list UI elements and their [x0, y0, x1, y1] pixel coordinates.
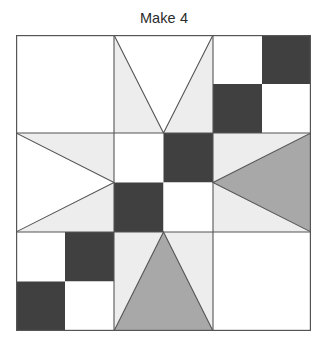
patch-white	[213, 232, 311, 331]
patch-dark	[262, 35, 311, 84]
quilt-block-svg	[16, 35, 311, 331]
patch-white	[16, 232, 65, 282]
patch-dark	[16, 282, 65, 332]
patch-dark	[213, 84, 262, 133]
unit-r2c3-flying-geese-left	[213, 133, 311, 232]
patch-dark	[65, 232, 114, 282]
patch-white	[262, 84, 311, 133]
patch-white	[114, 133, 164, 183]
quilt-block	[16, 35, 311, 331]
patch-white	[65, 282, 114, 332]
patch-dark	[164, 133, 214, 183]
patch-white	[164, 183, 214, 233]
unit-r2c2-four-patch	[114, 133, 213, 232]
unit-r1c2-flying-geese-down	[114, 35, 213, 133]
patch-dark	[114, 183, 164, 233]
unit-r1c1-plain-square	[16, 35, 114, 133]
unit-r1c3-four-patch	[213, 35, 311, 133]
quilt-block-figure: Make 4	[0, 0, 328, 346]
unit-r3c1-four-patch	[16, 232, 114, 331]
unit-r3c2-flying-geese-up	[114, 232, 213, 331]
patch-white	[213, 35, 262, 84]
unit-r2c1-flying-geese-right	[16, 133, 114, 232]
patch-white	[16, 35, 114, 133]
figure-title: Make 4	[0, 9, 328, 27]
unit-r3c3-plain-square	[213, 232, 311, 331]
